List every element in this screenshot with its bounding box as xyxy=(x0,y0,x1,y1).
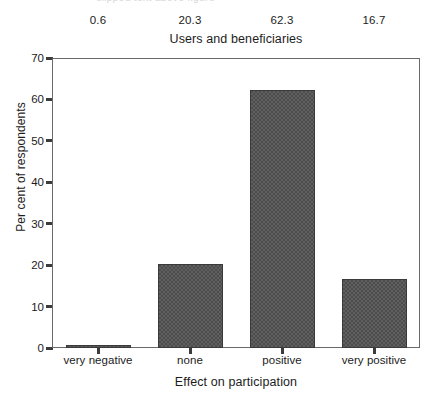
clipped-caption-text: clipped text above figure xyxy=(96,0,215,3)
bar-value-label: 16.7 xyxy=(328,12,420,28)
y-axis-tick-label: 40 xyxy=(14,176,44,188)
bar-value-label: 20.3 xyxy=(144,12,236,28)
y-axis-tick-label: 20 xyxy=(14,259,44,271)
y-axis-tick-label: 30 xyxy=(14,218,44,230)
bar-value-label: 62.3 xyxy=(236,12,328,28)
bar-slot xyxy=(250,58,315,348)
bar-value-label-row: 0.6 20.3 62.3 16.7 xyxy=(52,12,420,28)
y-axis-tick-label: 70 xyxy=(14,52,44,64)
y-axis-tick-label: 0 xyxy=(14,342,44,354)
bar-slot xyxy=(66,58,131,348)
chart-title: Users and beneficiaries xyxy=(52,31,420,47)
bars-layer xyxy=(52,58,420,348)
bar-value-label: 0.6 xyxy=(52,12,144,28)
bar[interactable] xyxy=(158,264,223,348)
y-axis-tick-label: 60 xyxy=(14,93,44,105)
bar[interactable] xyxy=(342,279,407,348)
y-axis-tick-label: 50 xyxy=(14,135,44,147)
bar-slot xyxy=(158,58,223,348)
x-axis-title: Effect on participation xyxy=(52,374,420,390)
bar[interactable] xyxy=(250,90,315,348)
clipped-caption: clipped text above figure xyxy=(0,0,434,9)
x-axis-tick-label: very positive xyxy=(319,353,429,367)
bar-slot xyxy=(342,58,407,348)
y-axis-tick-label: 10 xyxy=(14,301,44,313)
